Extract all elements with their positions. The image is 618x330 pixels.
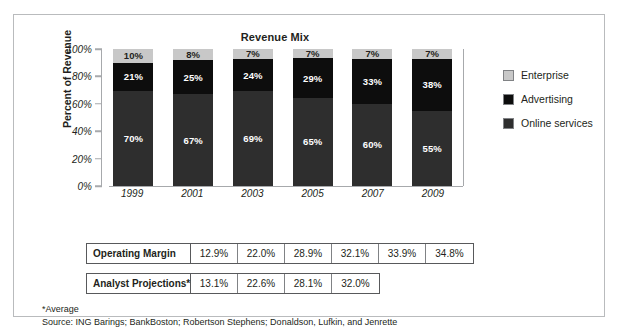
bar-segment-advertising[interactable]: 33% [352,59,392,104]
legend-item-label: Enterprise [521,69,569,81]
table-cell: 12.9% [191,244,238,263]
footnote-line: *Average [42,303,397,316]
table-cell: 22.6% [238,274,285,293]
bar-segment-enterprise[interactable]: 8% [173,49,213,60]
bar-segment-enterprise[interactable]: 7% [293,49,333,58]
plot-area: 0%20%40%60%80%100% 10%21%70%8%25%67%7%24… [101,49,464,186]
legend-item[interactable]: Enterprise [503,63,593,87]
table-cell: 32.1% [332,244,379,263]
y-axis-tick-label: 20% [32,153,92,164]
chart-legend: EnterpriseAdvertisingOnline services [503,63,593,135]
x-axis-tick-label: 2009 [398,188,468,199]
bar-column[interactable]: 7%33%60% [352,49,392,186]
bar-segment-advertising[interactable]: 24% [233,59,273,92]
table-cell: 28.9% [285,244,332,263]
legend-swatch-icon [503,118,514,129]
footnotes: *AverageSource: ING Barings; BankBoston;… [42,303,397,329]
table-cell: 34.8% [426,244,473,263]
analyst-projections-table: Analyst Projections*13.1%22.6%28.1%32.0% [86,273,380,294]
y-axis-tick-label: 40% [32,126,92,137]
bar-segment-advertising[interactable]: 38% [412,59,452,111]
bar-segment-advertising[interactable]: 21% [113,63,153,91]
y-axis-tick-label: 0% [32,181,92,192]
table-cell: 13.1% [191,274,238,293]
table-row-header: Operating Margin [87,244,191,263]
bar-segment-online-services[interactable]: 67% [173,94,213,186]
bar-segment-online-services[interactable]: 65% [293,98,333,186]
bar-column[interactable]: 10%21%70% [113,49,153,186]
bar-segment-advertising[interactable]: 29% [293,58,333,97]
bar-column[interactable]: 7%24%69% [233,49,273,186]
bar-segment-enterprise[interactable]: 7% [233,49,273,59]
legend-item-label: Advertising [521,93,573,105]
bar-segment-online-services[interactable]: 70% [113,91,153,186]
y-axis-tick-mark [95,130,102,132]
y-axis-tick-mark [95,185,102,187]
bar-column[interactable]: 7%38%55% [412,49,452,186]
bar-segment-enterprise[interactable]: 10% [113,49,153,63]
y-axis-tick-mark [95,158,102,160]
y-axis-tick-label: 100% [32,44,92,55]
table-row-header: Analyst Projections* [87,274,191,293]
figure-frame: Revenue Mix Percent of Revenue 0%20%40%6… [13,14,605,317]
legend-swatch-icon [503,70,514,81]
legend-item[interactable]: Online services [503,111,593,135]
operating-margin-table: Operating Margin12.9%22.0%28.9%32.1%33.9… [86,243,474,264]
table-cell: 22.0% [238,244,285,263]
y-axis-tick-label: 60% [32,98,92,109]
bar-segment-advertising[interactable]: 25% [173,60,213,94]
y-axis-tick-mark [95,48,102,50]
bar-column[interactable]: 7%29%65% [293,49,333,186]
legend-item-label: Online services [521,117,593,129]
chart-title: Revenue Mix [74,31,476,43]
y-axis-tick-mark [95,103,102,105]
bar-segment-enterprise[interactable]: 7% [412,49,452,59]
bar-group: 10%21%70%8%25%67%7%24%69%7%29%65%7%33%60… [104,49,463,186]
bar-column[interactable]: 8%25%67% [173,49,213,186]
table-cell: 33.9% [379,244,426,263]
table-cell: 32.0% [332,274,379,293]
bar-segment-online-services[interactable]: 60% [352,104,392,186]
bar-segment-online-services[interactable]: 55% [412,111,452,186]
bar-segment-enterprise[interactable]: 7% [352,49,392,59]
footnote-line: Source: ING Barings; BankBoston; Roberts… [42,316,397,329]
y-axis-tick-label: 80% [32,71,92,82]
plot-wrap: 0%20%40%60%80%100% 10%21%70%8%25%67%7%24… [88,49,464,186]
table-cell: 28.1% [285,274,332,293]
legend-item[interactable]: Advertising [503,87,593,111]
bar-segment-online-services[interactable]: 69% [233,91,273,186]
legend-swatch-icon [503,94,514,105]
y-axis-tick-mark [95,76,102,78]
